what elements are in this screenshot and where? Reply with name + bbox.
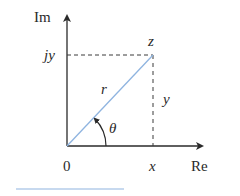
re-axis-label: Re (191, 158, 208, 174)
im-axis-label: Im (34, 9, 51, 25)
y-label: y (161, 91, 170, 107)
theta-label: θ (109, 120, 117, 136)
jy-label: jy (42, 47, 55, 63)
origin-label: 0 (63, 158, 71, 174)
r-label: r (101, 81, 107, 97)
complex-plane-diagram: Im Re 0 x jy z r y θ (0, 0, 240, 196)
z-label: z (147, 33, 154, 49)
angle-arc (95, 119, 106, 146)
x-label: x (148, 158, 156, 174)
